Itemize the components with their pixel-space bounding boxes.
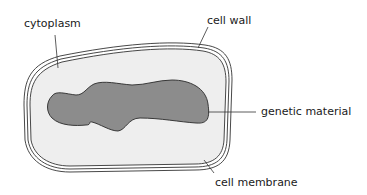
cell-wall-label: cell wall	[207, 15, 251, 26]
cell-membrane-label: cell membrane	[215, 177, 298, 188]
cytoplasm-label: cytoplasm	[24, 18, 81, 29]
cell-diagram: cytoplasm cell wall genetic material cel…	[0, 0, 367, 195]
genetic-material-label: genetic material	[261, 106, 351, 117]
